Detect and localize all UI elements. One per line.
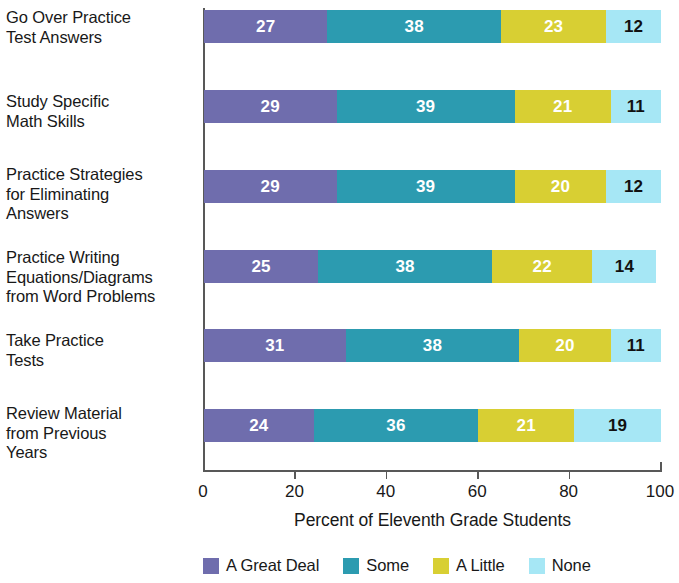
bar-segment-value: 25 <box>251 257 270 277</box>
bar-segment: 12 <box>606 170 661 203</box>
bar-segment-value: 22 <box>533 257 552 277</box>
bar-segment-value: 12 <box>624 17 643 37</box>
category-label-line: Practice Writing <box>6 248 200 268</box>
bar-segment-value: 36 <box>386 416 405 436</box>
bar-segment-value: 29 <box>261 177 280 197</box>
legend-label: Some <box>366 556 409 575</box>
bar-segment: 21 <box>515 90 611 123</box>
category-label-line: from Previous <box>6 424 200 444</box>
stacked-bar-chart: Go Over PracticeTest AnswersStudy Specif… <box>0 0 679 583</box>
bar-segment: 38 <box>346 329 520 362</box>
x-axis-tick-label: 40 <box>376 482 395 502</box>
x-axis-line <box>203 470 662 472</box>
bar-segment-value: 21 <box>517 416 536 436</box>
bar-segment-value: 19 <box>608 416 627 436</box>
bar-segment: 29 <box>204 170 337 203</box>
category-label-line: from Word Problems <box>6 287 200 307</box>
legend-label: None <box>552 556 591 575</box>
category-label-line: Take Practice <box>6 331 200 351</box>
category-label-line: for Eliminating <box>6 185 200 205</box>
bar-segment: 21 <box>478 409 574 442</box>
bar-segment: 27 <box>204 10 327 43</box>
bar-segment: 20 <box>515 170 606 203</box>
category-label-line: Review Material <box>6 404 200 424</box>
plot-area: 2738231229392111293920122538221431382011… <box>203 8 661 470</box>
x-axis-tick <box>294 470 296 479</box>
bar-segment: 24 <box>204 409 314 442</box>
legend-item[interactable]: A Little <box>433 556 505 575</box>
category-label: Study SpecificMath Skills <box>6 92 200 131</box>
bar-segment-value: 38 <box>395 257 414 277</box>
bar-segment: 19 <box>574 409 661 442</box>
bar-segment-value: 14 <box>615 257 634 277</box>
bar-segment: 25 <box>204 250 318 283</box>
legend-item[interactable]: A Great Deal <box>203 556 319 575</box>
category-label-line: Tests <box>6 351 200 371</box>
legend-item[interactable]: None <box>529 556 591 575</box>
bar-segment: 29 <box>204 90 337 123</box>
bar-row: 24362119 <box>204 409 662 442</box>
bar-segment-value: 23 <box>544 17 563 37</box>
x-axis-cap-right <box>660 462 662 472</box>
category-label-line: Equations/Diagrams <box>6 268 200 288</box>
bar-segment-value: 39 <box>416 97 435 117</box>
bar-segment-value: 12 <box>624 177 643 197</box>
legend-item[interactable]: Some <box>343 556 409 575</box>
bar-segment-value: 38 <box>405 17 424 37</box>
x-axis-tick-label: 0 <box>198 482 207 502</box>
bar-segment: 20 <box>519 329 610 362</box>
category-label-line: Answers <box>6 204 200 224</box>
category-label: Go Over PracticeTest Answers <box>6 8 200 47</box>
bar-segment: 14 <box>592 250 656 283</box>
bar-row: 31382011 <box>204 329 662 362</box>
category-label-line: Practice Strategies <box>6 165 200 185</box>
bar-segment: 12 <box>606 10 661 43</box>
x-axis-tick-label: 60 <box>468 482 487 502</box>
category-label: Practice Strategiesfor EliminatingAnswer… <box>6 165 200 224</box>
bar-segment: 39 <box>337 170 515 203</box>
category-label-line: Study Specific <box>6 92 200 112</box>
legend-swatch-icon <box>203 558 219 574</box>
chart-legend: A Great DealSomeA LittleNone <box>203 556 663 575</box>
bar-segment: 36 <box>314 409 479 442</box>
x-axis-cap-left <box>203 462 205 472</box>
bar-segment-value: 27 <box>256 17 275 37</box>
category-label-line: Go Over Practice <box>6 8 200 28</box>
category-label-column: Go Over PracticeTest AnswersStudy Specif… <box>0 0 200 470</box>
x-axis-tick <box>386 470 388 479</box>
x-axis-tick <box>477 470 479 479</box>
x-axis-tick-label: 80 <box>559 482 578 502</box>
category-label: Review Materialfrom PreviousYears <box>6 404 200 463</box>
legend-swatch-icon <box>433 558 449 574</box>
bar-segment: 38 <box>327 10 501 43</box>
bar-segment: 11 <box>611 90 661 123</box>
bar-row: 29392111 <box>204 90 662 123</box>
bar-segment-value: 38 <box>423 336 442 356</box>
y-axis-line <box>203 8 205 470</box>
legend-label: A Little <box>456 556 505 575</box>
category-label-line: Math Skills <box>6 112 200 132</box>
legend-label: A Great Deal <box>226 556 319 575</box>
bar-row: 25382214 <box>204 250 662 283</box>
bar-segment-value: 24 <box>249 416 268 436</box>
x-axis-tick <box>569 470 571 479</box>
legend-swatch-icon <box>529 558 545 574</box>
legend-swatch-icon <box>343 558 359 574</box>
category-label: Practice WritingEquations/Diagramsfrom W… <box>6 248 200 307</box>
bar-segment-value: 11 <box>627 336 645 356</box>
bar-segment-value: 39 <box>416 177 435 197</box>
bar-segment-value: 11 <box>627 97 645 117</box>
bar-segment: 22 <box>492 250 593 283</box>
bar-row: 27382312 <box>204 10 662 43</box>
bar-segment: 11 <box>611 329 661 362</box>
bar-segment-value: 29 <box>261 97 280 117</box>
bar-segment: 31 <box>204 329 346 362</box>
bar-row: 29392012 <box>204 170 662 203</box>
bar-segment-value: 20 <box>555 336 574 356</box>
x-axis-title: Percent of Eleventh Grade Students <box>203 510 662 531</box>
category-label-line: Years <box>6 443 200 463</box>
bar-segment: 23 <box>501 10 606 43</box>
bar-segment-value: 31 <box>265 336 284 356</box>
x-axis-tick-label: 100 <box>646 482 674 502</box>
category-label-line: Test Answers <box>6 28 200 48</box>
